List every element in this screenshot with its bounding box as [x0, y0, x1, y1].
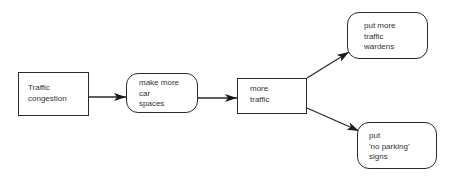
- arrow-more-traffic-to-no-parking: [307, 108, 359, 131]
- node-label: put more traffic wardens: [364, 21, 396, 53]
- node-make-more-car-spaces: make more car spaces: [126, 73, 198, 113]
- node-put-no-parking-signs: put 'no parking' signs: [357, 122, 437, 169]
- node-label: Traffic congestion: [28, 83, 67, 104]
- node-put-more-traffic-wardens: put more traffic wardens: [347, 12, 428, 59]
- node-label: more traffic: [250, 84, 269, 105]
- arrow-more-traffic-to-wardens: [307, 52, 349, 78]
- node-traffic-congestion: Traffic congestion: [18, 72, 89, 116]
- node-label: put 'no parking' signs: [369, 131, 409, 163]
- node-more-traffic: more traffic: [237, 78, 307, 114]
- node-label: make more car spaces: [139, 78, 179, 110]
